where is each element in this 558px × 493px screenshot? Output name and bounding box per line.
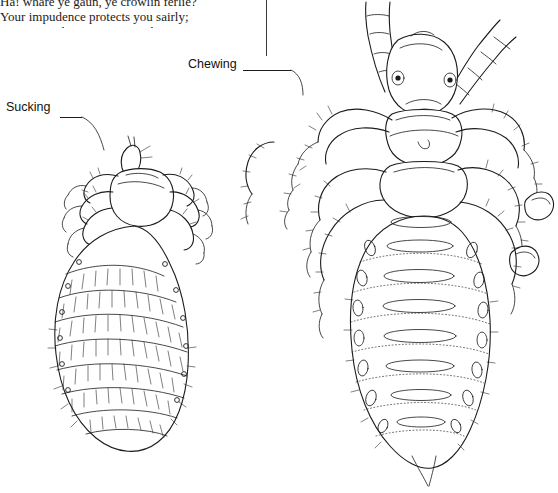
illustration-page: Ha! whare ye gaun, ye crowlin ferlie? Yo… (0, 0, 558, 493)
louse-illustrations (0, 0, 558, 493)
leader-curves (82, 70, 303, 150)
sucking-louse-figure (48, 136, 213, 451)
chewing-louse-figure (241, 2, 554, 486)
